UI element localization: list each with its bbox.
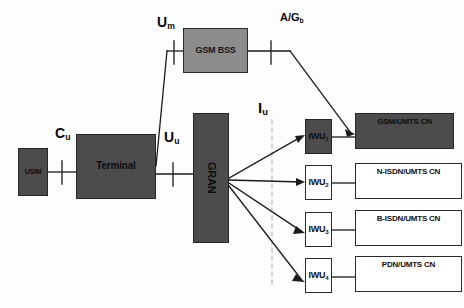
interface-label-um: Um [157, 15, 175, 29]
link-gran-iwu4 [229, 186, 301, 279]
node-iwu-4[interactable]: IWU4 [305, 258, 332, 293]
node-usim-label: USIM [25, 168, 42, 175]
node-cn-n-isdn-umts[interactable]: N-ISDN/UMTS CN [355, 163, 462, 199]
node-cn-pdn-umts[interactable]: PDN/UMTS CN [355, 256, 462, 292]
node-iwu-3[interactable]: IWU3 [305, 212, 332, 247]
arrowhead-gran-iwu2 [296, 178, 305, 186]
node-gran-label: GRAN [205, 162, 217, 194]
node-cn-gsm-umts[interactable]: GSM/UMTS CN [355, 113, 454, 149]
node-iwu-3-label: IWU3 [308, 225, 328, 234]
node-gsm-bss-label: GSM BSS [195, 46, 235, 55]
network-architecture-diagram: USIM Terminal GSM BSS GRAN IWU1 IWU2 IWU… [0, 0, 464, 308]
interface-label-agb: A/Gb [280, 12, 304, 23]
node-cn-n-isdn-umts-label: N-ISDN/UMTS CN [377, 168, 440, 176]
node-iwu-1-label: IWU1 [308, 132, 328, 141]
node-terminal[interactable]: Terminal [76, 134, 156, 199]
node-cn-b-isdn-umts-label: B-ISDN/UMTS CN [377, 215, 440, 223]
link-gran-iwu1 [229, 137, 301, 178]
arrowhead-agb-cn1 [345, 129, 355, 137]
link-gran-iwu2 [229, 180, 301, 182]
arrowhead-gran-iwu1 [295, 135, 305, 143]
node-gsm-bss[interactable]: GSM BSS [183, 28, 248, 73]
interface-label-uu: Uu [164, 130, 179, 144]
node-cn-pdn-umts-label: PDN/UMTS CN [382, 261, 435, 269]
link-gran-iwu3 [229, 183, 301, 231]
node-cn-gsm-umts-label: GSM/UMTS CN [377, 118, 432, 126]
interface-label-cu: Cu [55, 126, 70, 140]
node-iwu-4-label: IWU4 [308, 271, 328, 280]
node-iwu-2-label: IWU2 [308, 178, 328, 187]
interface-label-iu: Iu [258, 100, 268, 115]
node-iwu-2[interactable]: IWU2 [305, 165, 332, 200]
link-terminal-um-diagonal [156, 51, 167, 166]
node-iwu-1[interactable]: IWU1 [305, 119, 332, 154]
node-gran[interactable]: GRAN [193, 113, 229, 243]
node-cn-b-isdn-umts[interactable]: B-ISDN/UMTS CN [355, 210, 462, 246]
node-usim[interactable]: USIM [18, 148, 48, 196]
node-terminal-label: Terminal [96, 161, 135, 172]
